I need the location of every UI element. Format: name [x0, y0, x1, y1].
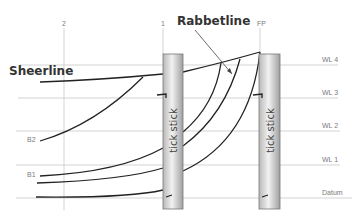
- station-1-label: 1: [161, 20, 165, 27]
- waterline-datum-label: Datum: [322, 189, 343, 196]
- waterline-wl2-label: WL 2: [322, 122, 338, 129]
- tick-stick-fp-label: tick stick: [265, 103, 276, 159]
- curves-left: [36, 74, 163, 197]
- tick-stick-1-label: tick stick: [168, 103, 179, 159]
- sheerline-label: Sheerline: [9, 64, 73, 78]
- waterline-wl3-label: WL 3: [322, 89, 338, 96]
- station-2-label: 2: [62, 20, 66, 27]
- waterline-wl4-label: WL 4: [322, 56, 338, 63]
- rabbetline-label: Rabbetline: [177, 14, 250, 28]
- tick-stick-diagram: [0, 0, 364, 222]
- buttock-b1-label: B1: [27, 171, 36, 178]
- curves-middle: [183, 52, 260, 171]
- waterline-wl1-label: WL 1: [322, 156, 338, 163]
- buttock-b2-label: B2: [27, 136, 36, 143]
- station-fp-label: FP: [257, 20, 266, 27]
